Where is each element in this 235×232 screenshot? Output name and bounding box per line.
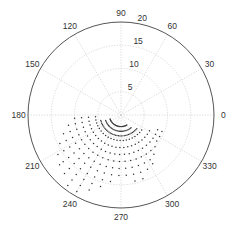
data-point	[130, 127, 131, 128]
data-point	[133, 131, 134, 132]
data-point	[63, 133, 64, 135]
data-point	[110, 138, 112, 140]
data-point	[100, 148, 102, 150]
data-point	[131, 167, 133, 169]
data-point	[93, 132, 95, 134]
theta-tick-label: 120	[63, 21, 77, 31]
theta-grid-spoke	[40, 69, 121, 116]
theta-grid-spoke	[40, 115, 121, 162]
data-point	[71, 179, 73, 181]
data-points	[57, 116, 163, 192]
data-point	[75, 123, 77, 125]
data-point	[92, 151, 94, 153]
data-point	[118, 168, 120, 170]
data-point	[84, 131, 86, 133]
theta-tick-label: 90	[116, 8, 126, 18]
data-point	[68, 124, 70, 126]
data-point	[135, 129, 136, 130]
data-point	[125, 135, 126, 136]
data-point	[140, 171, 142, 173]
data-point	[88, 148, 90, 150]
data-point	[101, 121, 102, 122]
data-point	[94, 161, 96, 163]
data-point	[100, 120, 101, 121]
r-tick-label: 15	[133, 36, 143, 46]
data-point	[107, 131, 108, 132]
data-point	[100, 186, 102, 188]
data-point	[113, 134, 114, 135]
data-point	[131, 145, 133, 147]
data-point	[104, 142, 106, 144]
data-point	[63, 150, 65, 152]
data-point	[76, 129, 78, 131]
data-point	[95, 116, 97, 118]
data-point	[108, 144, 110, 146]
data-point	[134, 130, 135, 131]
data-point	[126, 139, 128, 141]
data-point	[83, 179, 85, 181]
data-point	[69, 146, 71, 148]
data-point	[137, 134, 139, 136]
data-point	[81, 122, 83, 124]
theta-grid-spoke	[121, 34, 168, 115]
data-point	[154, 146, 156, 148]
data-point	[81, 139, 83, 141]
r-tick-label: 5	[128, 82, 133, 92]
data-point	[87, 135, 89, 137]
data-point	[144, 136, 146, 138]
data-point	[149, 130, 151, 132]
data-point	[62, 161, 64, 163]
data-point	[97, 155, 99, 157]
data-point	[116, 140, 118, 142]
data-point	[119, 154, 121, 156]
data-point	[114, 153, 116, 155]
data-point	[94, 176, 96, 178]
data-point	[90, 167, 92, 169]
data-point	[97, 170, 99, 172]
data-point	[138, 165, 140, 167]
data-point	[99, 163, 101, 165]
theta-tick-label: 0	[221, 110, 226, 120]
data-point	[102, 157, 104, 159]
data-point	[104, 127, 105, 128]
data-point	[156, 140, 158, 142]
data-point	[111, 146, 113, 148]
data-point	[132, 132, 133, 133]
data-point	[119, 140, 121, 142]
data-point	[105, 129, 106, 130]
r-tick-label: 20	[137, 13, 147, 23]
theta-grid-spoke	[121, 69, 202, 116]
data-point	[136, 128, 137, 129]
data-point	[95, 119, 97, 121]
data-point	[96, 122, 98, 124]
data-point	[87, 173, 89, 175]
data-point	[126, 124, 127, 125]
data-point	[67, 185, 69, 187]
data-point	[131, 137, 133, 139]
data-point	[102, 125, 103, 126]
data-point	[76, 191, 78, 193]
data-point	[112, 167, 114, 169]
data-point	[73, 163, 75, 165]
data-point	[75, 174, 77, 176]
data-point	[107, 159, 109, 161]
data-point	[91, 183, 93, 185]
data-point	[153, 153, 155, 155]
data-point	[75, 143, 77, 145]
data-point	[127, 146, 128, 148]
data-point	[99, 128, 101, 130]
data-point	[135, 158, 137, 160]
theta-tick-label: 180	[12, 110, 26, 120]
data-point	[83, 126, 85, 128]
data-point	[146, 145, 148, 147]
data-point	[144, 162, 146, 164]
data-point	[130, 133, 131, 134]
data-point	[121, 135, 122, 136]
data-point	[68, 157, 70, 159]
data-point	[83, 153, 85, 155]
data-point	[141, 139, 143, 141]
theta-tick-label: 300	[165, 199, 179, 209]
data-point	[69, 131, 71, 133]
data-point	[115, 135, 116, 136]
theta-tick-label: 60	[167, 21, 177, 31]
